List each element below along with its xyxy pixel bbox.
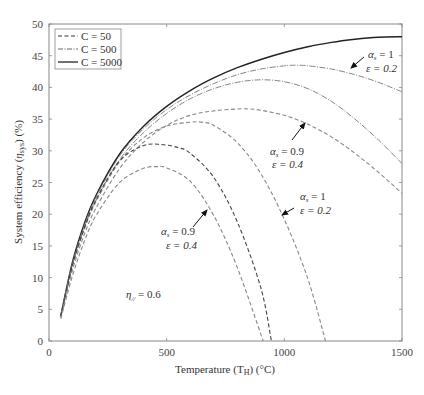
y-axis-title: System efficiency (ηsys) (%) [12,120,26,244]
legend-label-c500: C = 500 [81,43,117,55]
svg-text:ε = 0.2: ε = 0.2 [300,204,332,216]
legend: C = 50 C = 500 C = 5000 [55,29,123,69]
y-tick-label: 10 [32,272,44,284]
svg-text:αs = 0.9: αs = 0.9 [270,145,304,159]
y-tick-label: 40 [32,81,44,93]
svg-text:αs = 0.9: αs = 0.9 [161,225,195,239]
legend-label-c50: C = 50 [81,30,112,42]
svg-text:αs = 1: αs = 1 [368,48,394,62]
legend-label-c5000: C = 5000 [81,56,123,68]
x-axis-title: Temperature (TH) (°C) [175,363,275,377]
y-tick-label: 20 [32,208,44,220]
y-tick-label: 30 [32,145,44,157]
y-tick-label: 25 [32,177,44,189]
y-tick-label: 5 [38,303,44,315]
x-tick-label: 1500 [391,346,414,358]
y-tick-label: 35 [32,113,44,125]
x-tick-label: 500 [158,346,175,358]
svg-text:αs = 1: αs = 1 [300,190,326,204]
svg-text:ε = 0.2: ε = 0.2 [366,62,398,74]
x-tick-label: 1000 [273,346,296,358]
efficiency-chart: 05101520253035404550 050010001500 C = 50… [0,0,424,395]
y-tick-label: 0 [38,335,44,347]
svg-text:ε = 0.4: ε = 0.4 [166,239,198,251]
x-tick-label: 0 [46,346,52,358]
y-tick-label: 50 [32,18,44,30]
svg-text:ε = 0.4: ε = 0.4 [272,158,304,170]
y-tick-label: 15 [32,240,44,252]
y-tick-label: 45 [32,50,44,62]
